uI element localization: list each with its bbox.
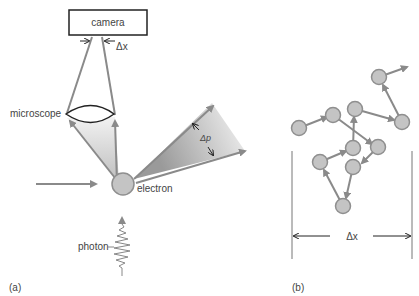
delta-p-label: Δp [199,133,211,143]
panel-b: Δx (b) [292,67,413,293]
photon-wave [114,224,130,276]
particle [346,141,361,156]
particle [371,140,386,155]
electron-label: electron [137,183,173,194]
camera-label: camera [91,17,125,28]
delta-x-label-a: Δx [116,41,128,52]
electron [112,173,134,195]
ray-lens-camera-right [102,37,115,115]
figure: camera Δx microscope Δp electron photon [0,0,419,296]
particle [336,199,351,214]
particle [326,108,341,123]
particle [395,115,410,130]
panel-b-label: (b) [292,282,304,293]
panel-a: camera Δx microscope Δp electron photon [9,10,245,293]
particle [292,121,307,136]
panel-a-label: (a) [9,282,21,293]
delta-x-label-b: Δx [346,231,358,242]
particles [292,70,410,214]
particle [372,70,387,85]
particle [313,155,328,170]
particle [346,160,361,175]
photon-label: photon [78,241,109,252]
ray-lens-camera-left [67,37,92,113]
microscope-label: microscope [10,108,62,119]
particle [348,102,363,117]
random-walk-path [299,67,407,206]
